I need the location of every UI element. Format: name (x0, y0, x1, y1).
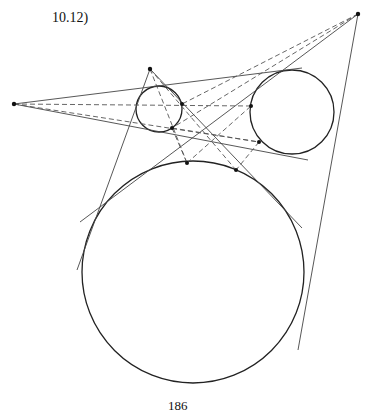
tangent-point-right-2 (257, 140, 261, 144)
tangent-line-c-right (298, 14, 358, 350)
tangent-line-a-lower (14, 104, 308, 160)
big-circle (82, 161, 304, 383)
tangent-line-b-left (77, 69, 150, 270)
right-circle (250, 70, 334, 154)
tangent-line-c-left (80, 14, 358, 222)
point-a (12, 102, 16, 106)
tangent-point-big-2 (234, 168, 238, 172)
dashed-b-to-big-right (150, 69, 236, 170)
dashed-a-to-right-upper (14, 104, 251, 106)
page-number: 186 (168, 398, 188, 414)
dashed-small-to-right (172, 128, 259, 142)
tangent-point-big-1 (185, 161, 189, 165)
dashed-c-to-small-lower (172, 14, 358, 128)
point-c (356, 12, 360, 16)
tangent-line-b-right (150, 69, 302, 228)
tangent-point-small-2 (170, 126, 174, 130)
point-b (148, 67, 152, 71)
dashed-small-to-big (172, 128, 187, 163)
tangent-point-small-1 (180, 102, 184, 106)
dashed-c-to-small-upper (182, 14, 358, 104)
dashed-right-to-big (236, 142, 259, 170)
tangent-point-right-1 (249, 104, 253, 108)
